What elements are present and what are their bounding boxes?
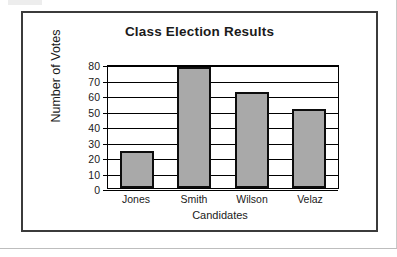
- bar-slot-wilson: [223, 66, 281, 188]
- bar-series: [108, 66, 338, 188]
- y-tick-label-60: 60: [88, 92, 100, 103]
- y-tick-label-0: 0: [94, 185, 100, 196]
- page-root: Class Election Results Number of Votes 8…: [0, 0, 397, 257]
- y-tick-label-70: 70: [88, 76, 100, 87]
- y-tick-label-50: 50: [88, 107, 100, 118]
- x-tick-label-jones: Jones: [107, 193, 165, 205]
- y-tick-label-80: 80: [88, 61, 100, 72]
- scan-artifact-bottom-rule: [0, 248, 397, 249]
- bar-jones[interactable]: [120, 151, 154, 188]
- bar-slot-velaz: [281, 66, 339, 188]
- y-tick-label-20: 20: [88, 154, 100, 165]
- scan-artifact-top-left: [8, 0, 42, 5]
- y-tick-label-10: 10: [88, 169, 100, 180]
- bar-wilson[interactable]: [235, 92, 269, 188]
- x-tick-label-wilson: Wilson: [223, 193, 281, 205]
- bar-velaz[interactable]: [292, 109, 326, 188]
- bar-slot-jones: [108, 66, 166, 188]
- y-tick-mark-0: [103, 190, 108, 191]
- bar-smith[interactable]: [177, 67, 211, 188]
- x-axis-tick-labels: JonesSmithWilsonVelaz: [107, 193, 339, 205]
- plot-area: 80706050403020100: [107, 65, 339, 189]
- bar-slot-smith: [166, 66, 224, 188]
- x-tick-label-smith: Smith: [165, 193, 223, 205]
- y-axis-title: Number of Votes: [49, 16, 63, 136]
- chart-figure-frame: Class Election Results Number of Votes 8…: [21, 11, 378, 232]
- gridline-0: [108, 190, 338, 191]
- x-tick-label-velaz: Velaz: [281, 193, 339, 205]
- y-tick-label-30: 30: [88, 138, 100, 149]
- chart-title: Class Election Results: [23, 24, 376, 39]
- x-axis-title: Candidates: [100, 209, 340, 221]
- y-tick-label-40: 40: [88, 123, 100, 134]
